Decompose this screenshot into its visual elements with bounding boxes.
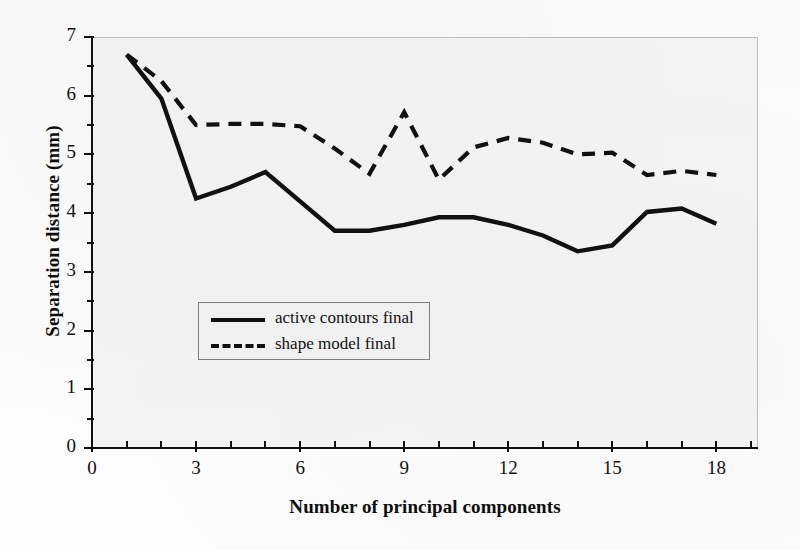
y-tick-minor	[87, 124, 94, 126]
y-tick-minor	[87, 300, 94, 302]
y-tick-major	[84, 95, 94, 97]
x-axis-label: Number of principal components	[92, 496, 758, 518]
legend-label: active contours final	[275, 308, 414, 328]
legend-line-sample-dashed	[211, 344, 265, 348]
x-tick-label: 6	[280, 457, 320, 479]
x-tick-minor	[264, 441, 266, 448]
y-tick-minor	[87, 65, 94, 67]
x-tick-minor	[160, 441, 162, 448]
legend-entry-active-contours-final: active contours final	[199, 307, 431, 331]
x-tick-minor	[126, 441, 128, 448]
plot-area	[92, 37, 758, 448]
x-tick-minor	[369, 441, 371, 448]
x-tick-minor	[577, 441, 579, 448]
x-tick-label: 12	[488, 457, 528, 479]
legend-line-sample-solid	[211, 318, 265, 322]
x-tick-major	[195, 441, 197, 452]
x-tick-label: 15	[592, 457, 632, 479]
x-tick-label: 18	[696, 457, 736, 479]
x-tick-major	[715, 441, 717, 452]
x-tick-minor	[230, 441, 232, 448]
legend-box: active contours final shape model final	[198, 302, 430, 360]
y-tick-major	[84, 153, 94, 155]
y-axis-label: Separation distance (mm)	[42, 91, 64, 371]
x-tick-minor	[681, 441, 683, 448]
y-tick-minor	[87, 418, 94, 420]
x-tick-minor	[542, 441, 544, 448]
x-tick-major	[403, 441, 405, 452]
x-tick-minor	[334, 441, 336, 448]
x-tick-minor	[473, 441, 475, 448]
y-tick-major	[84, 330, 94, 332]
x-tick-major	[507, 441, 509, 452]
y-tick-label: 7	[36, 24, 76, 46]
chart-figure: 01234567 0369121518 Separation distance …	[0, 0, 800, 550]
x-tick-label: 0	[72, 457, 112, 479]
x-tick-major	[91, 441, 93, 452]
y-tick-major	[84, 36, 94, 38]
y-tick-minor	[87, 242, 94, 244]
x-tick-major	[299, 441, 301, 452]
x-tick-minor	[750, 441, 752, 448]
y-tick-major	[84, 212, 94, 214]
y-tick-minor	[87, 359, 94, 361]
x-tick-major	[611, 441, 613, 452]
x-tick-label: 3	[176, 457, 216, 479]
x-tick-minor	[438, 441, 440, 448]
x-tick-minor	[646, 441, 648, 448]
x-tick-label: 9	[384, 457, 424, 479]
y-tick-label: 1	[36, 376, 76, 398]
y-tick-major	[84, 388, 94, 390]
x-axis-line	[92, 447, 758, 449]
y-tick-minor	[87, 183, 94, 185]
y-tick-major	[84, 271, 94, 273]
legend-entry-shape-model-final: shape model final	[199, 333, 431, 357]
legend-label: shape model final	[275, 334, 396, 354]
y-tick-label: 0	[36, 435, 76, 457]
